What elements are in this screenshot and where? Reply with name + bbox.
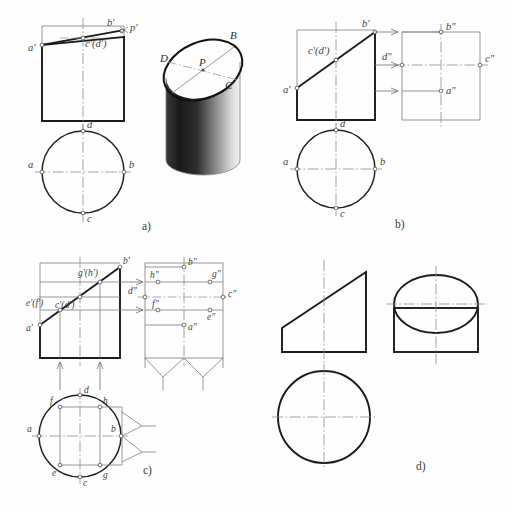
label-a-front-cd: c'(d') bbox=[85, 38, 107, 50]
panel-d-top-view bbox=[272, 364, 377, 470]
point-a-top-d bbox=[81, 129, 85, 133]
label-c-front-gh: g'(h') bbox=[78, 268, 98, 279]
label-c-side-f: f" bbox=[152, 299, 160, 309]
panel-a-front-view bbox=[40, 18, 128, 130]
point-c-front-a bbox=[38, 323, 42, 327]
drawing-sheet: a' c'(d') b' p' d a b c bbox=[0, 0, 513, 511]
point-b-side-a bbox=[439, 89, 443, 93]
point-b-top-a bbox=[295, 167, 299, 171]
label-c-front-cd: c'(d') bbox=[55, 300, 74, 311]
point-a-prime bbox=[40, 43, 44, 47]
label-c-side-b: b" bbox=[188, 257, 198, 267]
label-a-pic-P: P bbox=[198, 56, 206, 68]
label-b-side-b: b" bbox=[446, 21, 456, 32]
point-a-top-b bbox=[122, 170, 126, 174]
label-b-side-d: d" bbox=[382, 51, 392, 62]
label-a-front-b: b' bbox=[107, 17, 115, 28]
label-c-side-e: e" bbox=[207, 312, 216, 322]
point-a-top-c bbox=[81, 211, 85, 215]
panel-a: a' c'(d') b' p' d a b c bbox=[0, 0, 260, 235]
point-b-front-a bbox=[295, 86, 299, 90]
panel-id-row: c) bbox=[0, 458, 513, 488]
point-b-front-cd bbox=[334, 58, 338, 62]
panel-d-side-view bbox=[386, 266, 488, 364]
panel-b-top-view bbox=[290, 123, 382, 216]
point-c-side-g bbox=[208, 280, 212, 284]
label-b-top-d: d bbox=[340, 118, 346, 129]
label-a-pic-D: D bbox=[159, 52, 168, 64]
point-c-side-b bbox=[182, 265, 186, 269]
label-a-top-d: d bbox=[87, 119, 93, 130]
label-c-top-d: d bbox=[84, 385, 89, 395]
label-b-top-b: b bbox=[380, 156, 385, 167]
label-c-top-b: b bbox=[111, 424, 116, 434]
panel-b-front-view bbox=[295, 22, 377, 128]
label-a-pic-C: C bbox=[225, 79, 233, 91]
label-a-top-b: b bbox=[129, 159, 134, 170]
label-b-top-a: a bbox=[283, 156, 288, 167]
label-b-front-b: b' bbox=[362, 18, 370, 29]
label-a-top-c: c bbox=[87, 213, 92, 224]
point-a-top-a bbox=[40, 170, 44, 174]
point-c-front-cd bbox=[78, 295, 82, 299]
label-c-side-d: d" bbox=[128, 286, 138, 296]
label-a-pic-A: A bbox=[167, 95, 175, 107]
label-c-front-b: b' bbox=[123, 256, 131, 266]
label-c-side-c: c" bbox=[228, 289, 237, 299]
panel-a-top-view bbox=[35, 124, 131, 222]
label-b-side-a: a" bbox=[446, 85, 456, 96]
point-c-top-a bbox=[37, 434, 41, 438]
point-b-top-c bbox=[334, 206, 338, 210]
point-c-top-h bbox=[98, 405, 102, 409]
label-c-front-ef: e'(f') bbox=[26, 298, 43, 309]
point-b-top-d bbox=[334, 128, 338, 132]
panel-c: a' e'(f') c'(d') g'(h') b' b" h" g" d" c… bbox=[0, 240, 260, 490]
label-c-top-a: a bbox=[27, 424, 32, 434]
label-a-front-p: p' bbox=[129, 22, 138, 33]
point-c-side-c bbox=[221, 295, 225, 299]
label-c-top-h: h bbox=[103, 396, 108, 406]
point-P bbox=[202, 69, 205, 72]
panel-c-id: c) bbox=[143, 464, 152, 477]
panel-b-side-view bbox=[394, 24, 488, 128]
point-b-side-b bbox=[439, 30, 443, 34]
point-c-top-f bbox=[58, 405, 62, 409]
label-c-front-a: a' bbox=[26, 323, 34, 333]
label-a-top-a: a bbox=[28, 159, 33, 170]
panel-a-pictorial: B D P C A bbox=[154, 28, 251, 175]
label-b-top-c: c bbox=[340, 208, 345, 219]
point-c-side-d bbox=[143, 295, 147, 299]
label-a-pic-B: B bbox=[230, 29, 237, 41]
panel-b-id: b) bbox=[395, 218, 405, 231]
panel-d-front-view bbox=[282, 260, 366, 364]
label-a-front-a: a' bbox=[28, 42, 36, 53]
label-b-front-cd: c'(d') bbox=[308, 45, 330, 57]
label-c-side-h: h" bbox=[150, 270, 160, 280]
label-c-side-a: a" bbox=[188, 322, 198, 332]
point-b-side-c bbox=[478, 63, 482, 67]
panel-c-up-arrows bbox=[57, 362, 103, 390]
point-b-top-b bbox=[373, 167, 377, 171]
label-b-front-a: a' bbox=[283, 84, 291, 95]
point-c-front-b bbox=[118, 265, 122, 269]
point-c-side-h bbox=[156, 280, 160, 284]
label-c-side-g: g" bbox=[212, 269, 222, 279]
panel-a-id: a) bbox=[142, 220, 151, 233]
point-c-side-a bbox=[182, 323, 186, 327]
point-b-side-d bbox=[400, 63, 404, 67]
panel-b: a' c'(d') b' b" d" c" a" d a b c b) bbox=[256, 0, 513, 235]
point-c-top-b bbox=[119, 434, 123, 438]
panel-c-projection-arrows bbox=[120, 279, 143, 313]
panel-d: d) bbox=[256, 240, 513, 490]
label-b-side-c: c" bbox=[485, 53, 495, 64]
point-c-top-d bbox=[78, 393, 82, 397]
point-c-front-gh bbox=[98, 280, 102, 284]
